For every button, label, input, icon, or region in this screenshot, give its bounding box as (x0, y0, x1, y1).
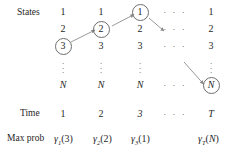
state-cell-t1-s1: 1 (52, 6, 74, 17)
state-cell-t1-sN: N (52, 79, 74, 90)
row-label-max-prob: Max prob (7, 133, 44, 143)
state-cell-t2-vdots: ... (90, 59, 112, 73)
max-prob-t2: γ2(2) (93, 133, 112, 146)
trellis-diagram: States Time Max prob 1 2 3 ... N 1 γ1(3)… (0, 0, 241, 153)
ellipsis-row-sN: · · · (162, 80, 188, 90)
state-cell-t3-sN: N (129, 79, 151, 90)
state-cell-t2-sN: N (90, 79, 112, 90)
state-cell-t3-s1: 1 (129, 6, 151, 17)
ellipsis-row-s2: · · · (162, 24, 188, 34)
max-prob-t1: γ1(3) (54, 133, 73, 146)
ellipsis-row-s3: · · · (162, 41, 188, 51)
state-cell-t1-s2: 2 (52, 23, 74, 34)
ellipsis-row-s1: · · · (162, 7, 188, 17)
state-cell-t3-s2: 2 (129, 23, 151, 34)
state-cell-t2-s1: 1 (90, 6, 112, 17)
ellipsis-row-time: · · · (162, 109, 188, 119)
state-cell-tT-s3: 3 (200, 40, 222, 51)
state-cell-t3-s3: 3 (129, 40, 151, 51)
time-cell-tT: T (200, 108, 222, 119)
max-prob-tT: γT(N) (198, 133, 219, 146)
row-label-states: States (17, 7, 40, 17)
state-cell-t2-s2: 2 (90, 23, 112, 34)
state-cell-tT-sN: N (200, 79, 222, 90)
state-cell-tT-vdots: ... (200, 59, 222, 73)
state-cell-t2-s3: 3 (90, 40, 112, 51)
max-prob-t3: γ3(1) (131, 133, 150, 146)
state-cell-t1-s3: 3 (52, 40, 74, 51)
time-cell-t2: 2 (90, 108, 112, 119)
state-cell-tT-s2: 2 (200, 23, 222, 34)
state-cell-t3-vdots: ... (129, 59, 151, 73)
time-cell-t3: 3 (129, 108, 151, 119)
state-cell-tT-s1: 1 (200, 6, 222, 17)
time-cell-t1: 1 (52, 108, 74, 119)
max-prob-tT-arg: N (209, 133, 216, 144)
state-cell-t1-vdots: ... (52, 59, 74, 73)
row-label-time: Time (20, 108, 40, 118)
